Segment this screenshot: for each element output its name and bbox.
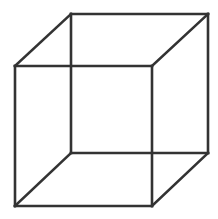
edge-front-bottom-left-to-back-bottom-left xyxy=(15,153,71,206)
edge-front-top-right-to-back-top-right xyxy=(152,14,208,66)
edge-front-bottom-right-to-back-bottom-right xyxy=(152,153,208,206)
cube-diagram xyxy=(0,0,218,219)
edge-front-top-left-to-back-top-left xyxy=(15,14,71,66)
cube-edges xyxy=(15,14,208,206)
